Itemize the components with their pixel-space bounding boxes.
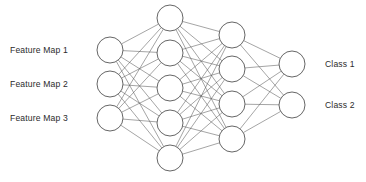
neuron-node xyxy=(97,37,123,63)
connection-edge xyxy=(243,76,281,99)
neuron-node xyxy=(157,145,183,171)
input-layer-label: Feature Map 1 xyxy=(10,45,68,55)
connection-edge xyxy=(182,143,219,154)
connection-edge xyxy=(245,104,279,105)
neural-network-diagram: Feature Map 1Feature Map 2Feature Map 3C… xyxy=(0,0,366,182)
connection-edge xyxy=(240,74,284,129)
neuron-node xyxy=(219,91,245,117)
connection-edge xyxy=(183,21,220,31)
output-layer-label: Class 1 xyxy=(325,59,355,69)
connection-edge xyxy=(123,119,157,122)
connection-edge xyxy=(177,80,224,148)
connection-edge xyxy=(121,125,159,151)
connection-edge xyxy=(243,71,281,97)
connection-edge xyxy=(182,39,219,50)
neuron-node xyxy=(97,71,123,97)
neuron-node xyxy=(97,105,123,131)
neuron-node xyxy=(219,22,245,48)
connection-edge xyxy=(121,24,158,44)
connection-edge xyxy=(245,65,279,68)
neuron-node xyxy=(219,56,245,82)
neuron-node xyxy=(157,110,183,136)
connection-edge xyxy=(116,61,163,146)
network-canvas: Feature Map 1Feature Map 2Feature Map 3C… xyxy=(0,0,366,182)
neuron-node xyxy=(157,5,183,31)
connection-edge xyxy=(121,91,159,116)
connection-edge xyxy=(177,46,224,113)
connection-edge xyxy=(243,111,280,132)
connection-edge xyxy=(122,94,159,112)
input-layer-label: Feature Map 3 xyxy=(10,113,68,123)
connection-edge xyxy=(121,57,159,81)
connection-edge xyxy=(119,63,161,109)
connection-edge xyxy=(182,73,219,84)
neuron-node xyxy=(279,92,305,118)
neuron-node xyxy=(157,40,183,66)
edges-group xyxy=(116,21,284,154)
input-layer-label: Feature Map 2 xyxy=(10,79,68,89)
neuron-node xyxy=(219,126,245,152)
neuron-node xyxy=(157,75,183,101)
output-layer-label: Class 2 xyxy=(325,100,355,110)
connection-edge xyxy=(244,41,281,59)
neuron-node xyxy=(279,51,305,77)
connection-edge xyxy=(180,26,222,60)
connection-edge xyxy=(240,45,283,95)
